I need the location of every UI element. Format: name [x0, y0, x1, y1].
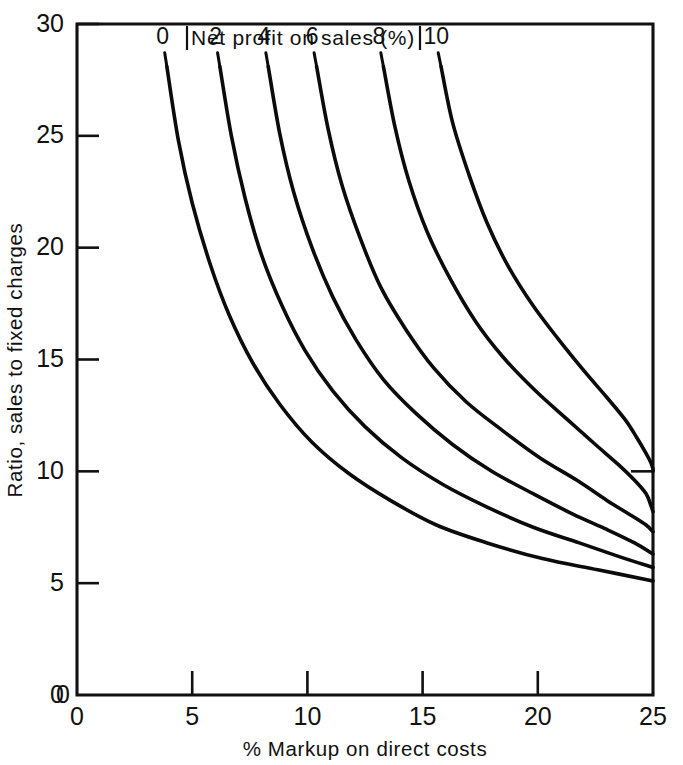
y-axis-title: Ratio, sales to fixed charges [3, 223, 26, 498]
curve-label-0: 0 [156, 23, 169, 49]
x-tick-label: 20 [524, 702, 552, 730]
x-tick-label: 10 [293, 702, 321, 730]
curve-label-10: 10 [423, 23, 449, 49]
y-tick-label: 25 [36, 120, 64, 148]
legend-title: Net profit on sales (%) [191, 26, 415, 49]
chart-background [0, 0, 683, 765]
x-tick-label: 0 [70, 702, 84, 730]
x-axis-title: % Markup on direct costs [243, 737, 488, 760]
nomograph-chart: 051015202530 0510152025 0 0246810 Net pr… [0, 0, 683, 765]
curve-leader-0 [165, 53, 167, 67]
legend-group: Net profit on sales (%) [187, 26, 420, 50]
y-tick-label: 10 [36, 456, 64, 484]
chart-figure: 051015202530 0510152025 0 0246810 Net pr… [0, 0, 683, 765]
y-tick-label: 20 [36, 232, 64, 260]
y-origin-zero-label: 0 [56, 680, 70, 708]
y-tick-label: 5 [50, 568, 64, 596]
x-tick-label: 25 [639, 702, 667, 730]
x-tick-label: 15 [409, 702, 437, 730]
y-tick-label: 30 [36, 9, 64, 37]
x-tick-label: 5 [185, 702, 199, 730]
y-tick-label: 15 [36, 344, 64, 372]
